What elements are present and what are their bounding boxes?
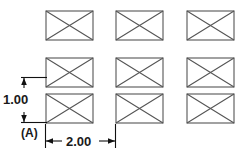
rect-r2-c3 [187,58,234,87]
rect-r2-c1 [46,58,93,87]
arrow-head-down [21,115,27,122]
rect-r2-c2 [116,58,163,87]
horizontal-dimension-value: 2.00 [66,134,91,149]
rect-r1-c1 [46,11,93,40]
datum-label-a: (A) [21,126,38,140]
rect-r3-c3 [187,94,234,123]
engineering-drawing-canvas: 1.00 2.00 (A) [0,0,238,163]
arrow-head-up [21,78,27,85]
rect-r1-c2 [116,11,163,40]
vertical-dimension-value: 1.00 [3,92,28,107]
rect-r3-c2 [116,94,163,123]
drawing-svg: 1.00 2.00 (A) [0,0,238,163]
horizontal-dimension: 2.00 [46,124,116,149]
arrow-head-right [108,138,115,144]
arrow-head-left [46,138,53,144]
vertical-dimension: 1.00 [3,78,47,123]
rect-r3-c1 [46,94,93,123]
rect-r1-c3 [187,11,234,40]
